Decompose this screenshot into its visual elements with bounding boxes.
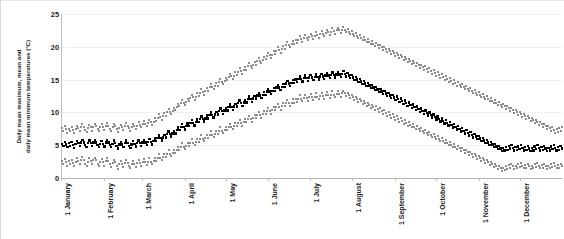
data-point — [66, 165, 68, 167]
data-point — [184, 148, 186, 150]
data-point — [252, 117, 254, 119]
y-axis-title-line-1: Daily mean maximum, mean and — [16, 39, 25, 152]
data-point — [165, 115, 167, 117]
x-tick-label: 1 October — [439, 183, 446, 216]
data-point — [521, 116, 523, 118]
data-point — [407, 61, 409, 63]
data-point — [464, 152, 466, 154]
data-point — [125, 159, 127, 161]
data-point — [299, 94, 301, 96]
data-point — [366, 41, 368, 43]
data-point — [62, 130, 64, 132]
data-point — [444, 142, 446, 144]
data-point — [331, 90, 333, 92]
data-point — [178, 105, 180, 107]
data-point — [378, 111, 380, 113]
data-point — [99, 126, 101, 128]
data-point — [558, 167, 560, 169]
data-point — [241, 125, 243, 127]
data-point — [62, 163, 64, 165]
data-point — [244, 118, 246, 120]
data-point — [195, 96, 197, 98]
data-point — [135, 145, 137, 147]
data-point — [77, 160, 79, 162]
data-point — [277, 103, 279, 105]
data-point — [65, 161, 67, 163]
data-point — [297, 39, 299, 41]
data-point — [323, 98, 325, 100]
data-point — [195, 141, 197, 143]
data-point — [234, 122, 236, 124]
x-tick-label: 1 December — [523, 183, 530, 223]
data-point — [484, 98, 486, 100]
data-point — [176, 149, 178, 151]
data-point — [157, 117, 159, 119]
data-point — [155, 160, 157, 162]
data-point — [247, 118, 249, 120]
data-point — [112, 126, 114, 128]
data-point — [546, 168, 548, 170]
data-point — [213, 136, 215, 138]
data-point — [75, 161, 77, 163]
data-point — [204, 90, 206, 92]
data-point — [280, 109, 282, 111]
data-point — [194, 99, 196, 101]
data-point — [236, 74, 238, 76]
data-point — [105, 160, 107, 162]
data-point — [98, 165, 100, 167]
data-point — [209, 86, 211, 88]
data-point — [260, 62, 262, 64]
data-point — [271, 54, 273, 56]
data-point — [456, 148, 458, 150]
data-point — [91, 163, 93, 165]
data-point — [203, 120, 205, 122]
data-point — [301, 41, 303, 43]
data-point — [162, 115, 164, 117]
data-point — [73, 132, 75, 134]
data-point — [99, 161, 101, 163]
x-tick-label: 1 July — [313, 183, 320, 203]
y-tick-label: 25 — [37, 10, 59, 19]
data-point — [489, 164, 491, 166]
data-point — [103, 165, 105, 167]
data-point — [312, 79, 314, 81]
data-point — [501, 170, 503, 172]
data-point — [170, 113, 172, 115]
data-point — [245, 101, 247, 103]
data-point — [340, 32, 342, 34]
data-point — [154, 157, 156, 159]
x-tick — [226, 178, 227, 181]
x-tick-label: 1 January — [64, 183, 71, 216]
data-point — [517, 114, 519, 116]
data-point — [166, 153, 168, 155]
data-point — [86, 131, 88, 133]
data-point — [138, 159, 140, 161]
data-point — [542, 126, 544, 128]
data-point — [102, 126, 104, 128]
data-point — [174, 109, 176, 111]
gridline — [62, 47, 562, 48]
data-point — [161, 139, 163, 141]
data-point — [146, 144, 148, 146]
data-point — [382, 113, 384, 115]
data-point — [292, 98, 294, 100]
data-point — [403, 123, 405, 125]
data-point — [319, 33, 321, 35]
data-point — [87, 161, 89, 163]
data-point — [310, 93, 312, 95]
data-point — [334, 96, 336, 98]
data-point — [103, 145, 105, 147]
data-point — [394, 55, 396, 57]
gridline — [62, 14, 562, 15]
data-point — [427, 134, 429, 136]
data-point — [439, 77, 441, 79]
data-point — [386, 115, 388, 117]
data-point — [472, 92, 474, 94]
data-point — [243, 121, 245, 123]
data-point — [188, 145, 190, 147]
data-point — [79, 163, 81, 165]
data-point — [501, 106, 503, 108]
data-point — [252, 64, 254, 66]
y-tick-label: 5 — [37, 141, 59, 150]
data-point — [194, 144, 196, 146]
